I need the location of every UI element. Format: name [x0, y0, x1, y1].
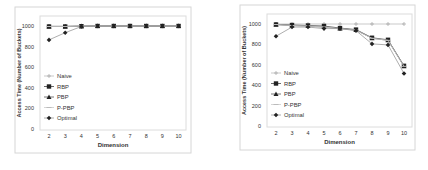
svg-text:Access Time (Number of Buckets: Access Time (Number of Buckets): [241, 26, 247, 115]
svg-text:400: 400: [25, 85, 34, 91]
svg-text:0: 0: [258, 123, 261, 129]
svg-text:10: 10: [401, 130, 407, 136]
svg-text:Naive: Naive: [284, 70, 299, 76]
svg-text:PBP: PBP: [284, 91, 296, 97]
svg-text:6: 6: [112, 133, 115, 139]
svg-text:800: 800: [252, 41, 261, 47]
svg-text:8: 8: [370, 130, 373, 136]
svg-text:Naive: Naive: [57, 73, 72, 79]
svg-text:RBP: RBP: [284, 81, 296, 87]
chart-left-svg: 020040060080010002345678910DimensionAcce…: [0, 0, 214, 170]
svg-text:3: 3: [64, 133, 67, 139]
svg-text:P-PBP: P-PBP: [284, 102, 302, 108]
svg-text:Dimension: Dimension: [324, 139, 355, 145]
svg-text:6: 6: [338, 130, 341, 136]
svg-text:5: 5: [96, 133, 99, 139]
svg-text:200: 200: [252, 103, 261, 109]
svg-text:0: 0: [31, 126, 34, 132]
svg-text:10: 10: [176, 133, 182, 139]
chart-left: 020040060080010002345678910DimensionAcce…: [0, 0, 214, 170]
svg-text:5: 5: [322, 130, 325, 136]
svg-text:9: 9: [386, 130, 389, 136]
svg-text:800: 800: [25, 44, 34, 50]
svg-text:1000: 1000: [249, 21, 261, 27]
svg-text:4: 4: [80, 133, 83, 139]
svg-text:Dimension: Dimension: [98, 142, 129, 148]
svg-text:7: 7: [128, 133, 131, 139]
chart-right-svg: 020040060080010002345678910DimensionAcce…: [214, 0, 428, 170]
svg-text:1000: 1000: [22, 23, 34, 29]
svg-text:9: 9: [161, 133, 164, 139]
svg-text:200: 200: [25, 105, 34, 111]
svg-text:P-PBP: P-PBP: [57, 105, 75, 111]
svg-text:2: 2: [274, 130, 277, 136]
svg-text:4: 4: [306, 130, 309, 136]
chart-right: 020040060080010002345678910DimensionAcce…: [214, 0, 428, 170]
svg-text:7: 7: [354, 130, 357, 136]
svg-text:Optimal: Optimal: [57, 115, 77, 121]
svg-text:400: 400: [252, 82, 261, 88]
svg-text:600: 600: [25, 64, 34, 70]
svg-text:2: 2: [47, 133, 50, 139]
svg-text:RBP: RBP: [57, 84, 69, 90]
svg-text:8: 8: [145, 133, 148, 139]
svg-text:600: 600: [252, 62, 261, 68]
svg-text:Access Time (Number of Buckets: Access Time (Number of Buckets): [16, 28, 22, 117]
svg-text:PBP: PBP: [57, 94, 69, 100]
svg-text:Optimal: Optimal: [284, 112, 304, 118]
svg-text:3: 3: [290, 130, 293, 136]
